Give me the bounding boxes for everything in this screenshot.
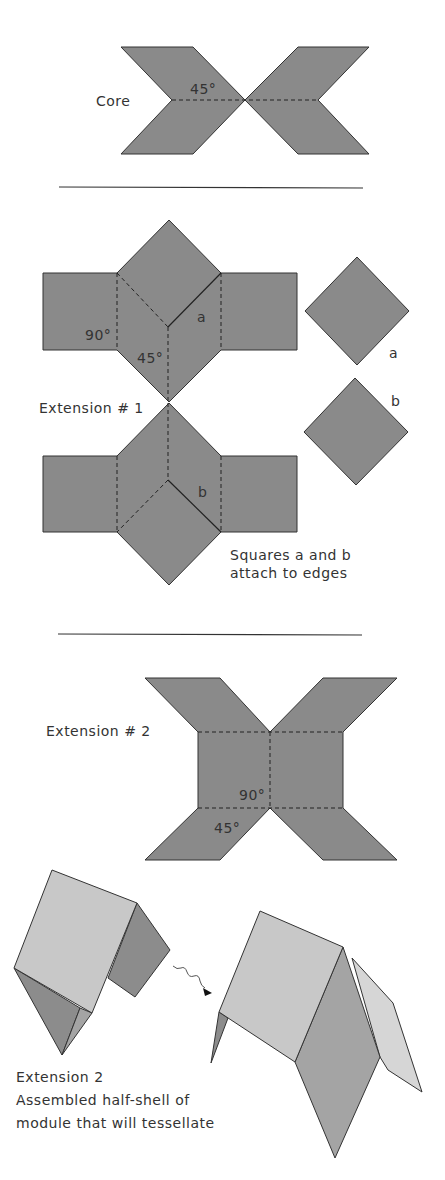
core-shape (121, 47, 369, 154)
ext2-angle-90: 90° (239, 788, 265, 802)
extension1-upper-shape (43, 220, 297, 402)
squares-note-line2: attach to edges (230, 566, 347, 580)
assembled-caption-line2: Assembled half-shell of (16, 1093, 190, 1107)
square-b-label: b (391, 394, 400, 408)
extension1-label: Extension # 1 (39, 401, 144, 415)
diagram-canvas (0, 0, 445, 1180)
ext1-angle-45: 45° (137, 351, 163, 365)
squares-note-line1: Squares a and b (230, 548, 351, 562)
ext1-edge-b-label: b (198, 485, 207, 499)
divider-1 (59, 187, 363, 188)
transition-arrow-icon (173, 966, 212, 996)
ext2-angle-45: 45° (214, 821, 240, 835)
extension2-shape (145, 678, 397, 860)
divider-2 (58, 634, 362, 635)
square-a-label: a (389, 346, 398, 360)
assembled-caption-line3: module that will tessellate (16, 1116, 215, 1130)
core-label: Core (96, 94, 130, 108)
core-angle-45: 45° (190, 82, 216, 96)
extension2-label: Extension # 2 (46, 724, 151, 738)
ext1-edge-a-label: a (197, 310, 206, 324)
assembled-module-right (211, 911, 422, 1158)
ext1-angle-90: 90° (85, 328, 111, 342)
assembled-caption-line1: Extension 2 (16, 1070, 104, 1084)
assembled-module-left (14, 870, 170, 1055)
